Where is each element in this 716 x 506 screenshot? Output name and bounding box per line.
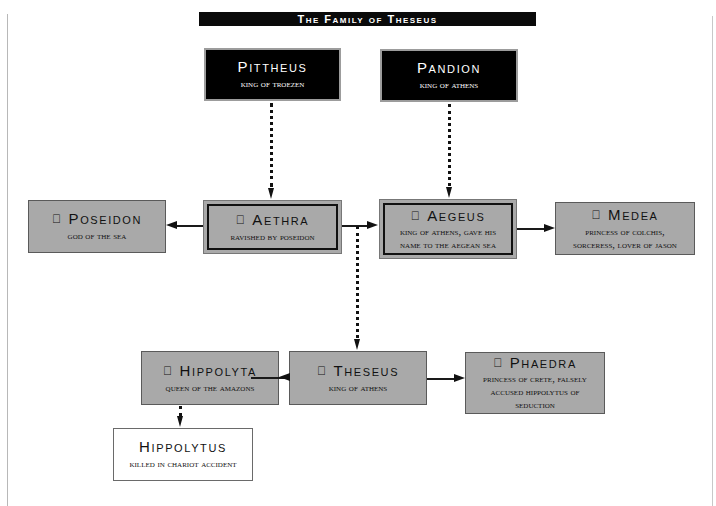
edge-hippolyta-hippolytus [179, 406, 182, 416]
node-name: Pittheus [238, 59, 308, 75]
node-desc-line: seduction [483, 398, 587, 411]
node-desc-line: Princess of Colchis, [573, 225, 677, 238]
node-desc-line: sorceress, lover of Jason [573, 238, 677, 251]
node-medea: Medea Princess of Colchis, sorceress, l… [555, 202, 695, 255]
apple-icon:  [236, 212, 247, 228]
node-desc: God of the sea [62, 229, 133, 242]
node-aegeus: Aegeus King of Athens, gave his name to… [379, 199, 517, 259]
node-hippolytus: Hippolytus Killed in chariot accident [113, 428, 253, 481]
node-desc: Princess of Colchis, sorceress, lover of… [567, 225, 683, 251]
edge-aethra-aegeus [342, 225, 368, 227]
arrow-head-down [177, 416, 183, 427]
arrow-head-left [279, 373, 290, 381]
arrow-head-right [367, 221, 378, 229]
arrow-head-down [268, 188, 274, 199]
node-desc: Queen of the Amazons [160, 381, 261, 394]
node-name: Aegeus [411, 208, 486, 224]
node-desc: King of Troezen [235, 77, 311, 90]
edge-theseus-phaedra [427, 378, 454, 380]
node-name-text: Aethra [252, 211, 309, 228]
node-name-text: Poseidon [69, 210, 143, 227]
node-name-text: Aegeus [427, 207, 485, 224]
arrow-head-right [454, 374, 465, 382]
edge-aegeus-medea [517, 228, 544, 230]
node-name: Hippolyta [163, 363, 257, 379]
node-name-text: Phaedra [510, 354, 577, 371]
edge-pittheus-aethra [270, 103, 273, 187]
arrow-head-down [446, 187, 452, 198]
page-border-right [712, 16, 713, 506]
apple-icon:  [411, 208, 422, 224]
node-name: Aethra [236, 212, 310, 228]
node-name-text: Theseus [334, 362, 400, 379]
node-desc-line: King of Athens, gave his [400, 225, 496, 238]
node-desc-line: accused Hippolytus of [483, 385, 587, 398]
node-theseus: Theseus King of Athens [289, 351, 427, 405]
node-desc: Killed in chariot accident [123, 457, 242, 470]
node-name-text: Medea [608, 206, 658, 223]
node-desc: King of Athens, gave his name to the Aeg… [394, 225, 502, 251]
node-name-text: Hippolyta [180, 362, 257, 379]
edge-pandion-aegeus [448, 104, 451, 186]
node-name: Medea [591, 207, 658, 223]
node-desc-line: Princess of Crete, falsely [483, 372, 587, 385]
node-phaedra: Phaedra Princess of Crete, falsely accu… [465, 352, 605, 414]
diagram-title: The Family of Theseus [199, 12, 536, 26]
apple-icon:  [591, 207, 602, 223]
node-pandion: Pandion King of Athens [380, 49, 518, 102]
node-name: Phaedra [493, 355, 577, 371]
edge-parents-theseus [356, 226, 359, 338]
node-aethra: Aethra Ravished by Poseidon [203, 200, 342, 254]
node-name: Poseidon [52, 211, 142, 227]
node-desc-line: name to the Aegean sea [400, 238, 496, 251]
node-desc: King of Athens [323, 381, 394, 394]
node-name: Pandion [417, 60, 481, 76]
edge-aethra-poseidon [176, 225, 203, 227]
node-desc: King of Athens [414, 78, 485, 91]
apple-icon:  [317, 363, 328, 379]
arrow-head-down [354, 339, 360, 350]
apple-icon:  [163, 363, 174, 379]
node-desc: Princess of Crete, falsely accused Hippo… [477, 372, 593, 411]
apple-icon:  [493, 355, 504, 371]
arrow-head-left [166, 221, 177, 229]
node-pittheus: Pittheus King of Troezen [204, 48, 341, 101]
node-name: Theseus [317, 363, 399, 379]
node-poseidon: Poseidon God of the sea [28, 200, 166, 253]
node-desc: Ravished by Poseidon [224, 230, 320, 243]
page-border-left [7, 14, 8, 506]
node-name: Hippolytus [139, 439, 227, 455]
apple-icon:  [52, 211, 63, 227]
arrow-head-right [544, 224, 555, 232]
